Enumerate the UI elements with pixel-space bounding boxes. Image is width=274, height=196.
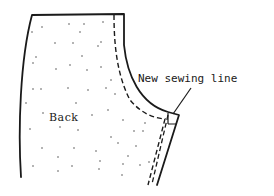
original-seam-line [114,15,165,185]
piece-label-back: Back [49,112,78,123]
diagram-svg [0,0,274,196]
annotation-new-sewing-line: New sewing line [138,73,237,84]
fabric-texture-dots [25,21,150,176]
leader-line [173,88,191,114]
sewing-diagram: Back New sewing line [0,0,274,196]
